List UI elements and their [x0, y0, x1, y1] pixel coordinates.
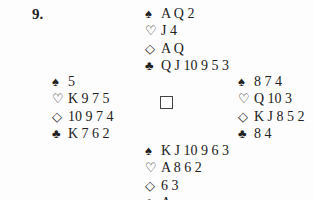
west-hand: ♠5 ♡K 9 7 5 ◇10 9 7 4 ♣K 7 6 2: [52, 73, 114, 142]
west-hearts: ♡K 9 7 5: [52, 90, 114, 107]
club-icon: ♣: [52, 125, 68, 142]
spade-icon: ♠: [145, 142, 161, 159]
club-icon: ♣: [145, 194, 161, 200]
spade-icon: ♠: [238, 73, 254, 90]
heart-icon: ♡: [145, 22, 161, 39]
table-square-icon: [160, 96, 173, 109]
south-hand: ♠K J 10 9 6 3 ♡A 8 6 2 ◇6 3 ♣A: [145, 142, 229, 200]
east-hearts: ♡Q 10 3: [238, 90, 305, 107]
north-diamonds: ◇A Q: [145, 40, 229, 57]
club-icon: ♣: [145, 57, 161, 74]
west-diamonds: ◇10 9 7 4: [52, 108, 114, 125]
east-diamonds: ◇K J 8 5 2: [238, 108, 305, 125]
west-spades: ♠5: [52, 73, 114, 90]
south-hearts: ♡A 8 6 2: [145, 159, 229, 176]
heart-icon: ♡: [145, 159, 161, 176]
diamond-icon: ◇: [52, 108, 68, 125]
diamond-icon: ◇: [145, 177, 161, 194]
heart-icon: ♡: [52, 90, 68, 107]
east-hand: ♠8 7 4 ♡Q 10 3 ◇K J 8 5 2 ♣8 4: [238, 73, 305, 142]
diamond-icon: ◇: [145, 40, 161, 57]
south-clubs: ♣A: [145, 194, 229, 200]
spade-icon: ♠: [52, 73, 68, 90]
south-diamonds: ◇6 3: [145, 177, 229, 194]
heart-icon: ♡: [238, 90, 254, 107]
problem-number: 9.: [32, 6, 43, 23]
north-hearts: ♡J 4: [145, 22, 229, 39]
diamond-icon: ◇: [238, 108, 254, 125]
east-spades: ♠8 7 4: [238, 73, 305, 90]
south-spades: ♠K J 10 9 6 3: [145, 142, 229, 159]
east-clubs: ♣8 4: [238, 125, 305, 142]
north-clubs: ♣Q J 10 9 5 3: [145, 57, 229, 74]
north-hand: ♠A Q 2 ♡J 4 ◇A Q ♣Q J 10 9 5 3: [145, 5, 229, 74]
club-icon: ♣: [238, 125, 254, 142]
bridge-diagram: 9. ♠A Q 2 ♡J 4 ◇A Q ♣Q J 10 9 5 3 ♠5 ♡K …: [0, 0, 314, 200]
north-spades: ♠A Q 2: [145, 5, 229, 22]
spade-icon: ♠: [145, 5, 161, 22]
west-clubs: ♣K 7 6 2: [52, 125, 114, 142]
